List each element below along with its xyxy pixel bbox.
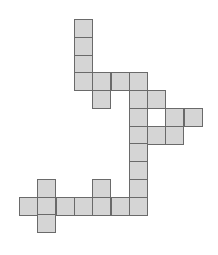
grid-square <box>74 37 93 56</box>
square-grid-figure <box>0 0 218 255</box>
grid-square <box>111 197 130 216</box>
grid-square <box>129 90 148 109</box>
grid-square <box>92 72 111 91</box>
grid-square <box>74 197 93 216</box>
grid-square <box>56 197 75 216</box>
grid-square <box>37 214 56 233</box>
grid-square <box>165 108 184 127</box>
grid-square <box>111 72 130 91</box>
grid-square <box>129 197 148 216</box>
grid-square <box>92 90 111 109</box>
grid-square <box>92 197 111 216</box>
grid-square <box>74 72 93 91</box>
grid-square <box>129 161 148 180</box>
grid-square <box>147 90 166 109</box>
grid-square <box>147 126 166 145</box>
grid-square <box>37 179 56 198</box>
grid-square <box>165 126 184 145</box>
grid-square <box>184 108 203 127</box>
grid-square <box>129 72 148 91</box>
grid-square <box>92 179 111 198</box>
grid-square <box>129 108 148 127</box>
grid-square <box>19 197 38 216</box>
grid-square <box>129 179 148 198</box>
grid-square <box>129 143 148 162</box>
grid-square <box>74 19 93 38</box>
